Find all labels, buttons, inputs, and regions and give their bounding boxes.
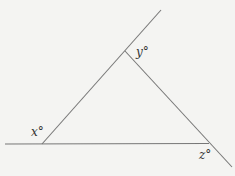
base-line [5, 144, 209, 145]
angle-x-label: x° [31, 125, 44, 139]
triangle-diagram: x° y° z° [0, 0, 235, 176]
left-side-line [42, 10, 161, 144]
angle-z-label: z° [198, 148, 211, 162]
right-side-line [125, 51, 232, 167]
angle-y-label: y° [135, 45, 149, 59]
